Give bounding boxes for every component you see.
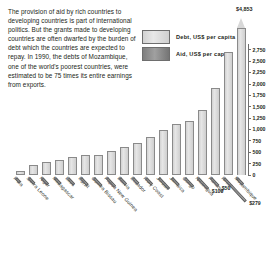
debt-bar [224,52,234,175]
axis-tick: 1,750 [248,92,265,98]
debt-bar [68,157,78,175]
axis-tick-label: 1,750 [253,92,266,98]
aid-bar [53,177,61,185]
debt-bar [211,88,221,175]
axis-tick-label: 0 [253,172,256,178]
axis-tick: 2,250 [248,69,265,75]
axis-tick-label: 750 [253,138,262,144]
debt-bar [120,147,130,175]
debt-bar [55,160,65,175]
axis-tick: 2,500 [248,58,265,64]
axis-tick: 750 [248,138,261,144]
axis-tick-mark [248,106,251,107]
axis-tick-label: 1,250 [253,115,266,121]
debt-bar [237,28,247,175]
axis-tick-mark [248,61,251,62]
bar-plot-area [14,18,248,175]
debt-bar [172,124,182,175]
axis-tick-mark [248,84,251,85]
debt-bar [185,121,195,175]
axis-tick-label: 2,250 [253,69,266,75]
axis-tick: 2,750 [248,47,265,53]
debt-bar [81,155,91,175]
bar-arrow-tip-outline-icon [237,18,245,28]
axis-tick-mark [248,72,251,73]
category-label-area: IndiaSierra LeoneNigerMadagascarLaosEgyp… [14,175,248,268]
debt-bar [29,165,39,175]
debt-bar [133,143,143,175]
axis-tick-mark [248,140,251,141]
axis-tick-mark [248,129,251,130]
axis-tick: 1,000 [248,126,265,132]
axis-tick-label: 2,750 [253,47,266,53]
axis-tick-mark [248,118,251,119]
axis-tick-label: 250 [253,161,262,167]
axis-tick: 250 [248,161,261,167]
axis-tick: 2,000 [248,81,265,87]
axis-tick-mark [248,163,251,164]
debt-bar [146,137,156,175]
axis-tick: 1,500 [248,104,265,110]
debt-bar [107,151,117,175]
axis-tick-label: 1,000 [253,126,266,132]
debt-bar [94,155,104,176]
debt-bar [159,130,169,175]
debt-bar [42,162,52,175]
axis-tick-mark [248,175,251,176]
value-axis: 02505007501,0001,2501,5001,7502,0002,250… [248,18,277,175]
debt-aid-figure: The provision of aid by rich countries t… [0,0,277,268]
axis-tick-mark [248,152,251,153]
axis-tick-label: 2,000 [253,81,266,87]
axis-tick-mark [248,49,251,50]
aid-value-annotation: $279 [249,200,261,206]
axis-tick: 1,250 [248,115,265,121]
aid-value-annotation: $50 [222,185,231,191]
axis-tick-label: 2,500 [253,58,266,64]
axis-tick-mark [248,95,251,96]
axis-tick-label: 1,500 [253,104,266,110]
axis-tick-label: 500 [253,149,262,155]
peak-value-label: $4,853 [236,6,253,12]
debt-bar [198,110,208,175]
axis-tick: 500 [248,149,261,155]
axis-tick: 0 [248,172,255,178]
